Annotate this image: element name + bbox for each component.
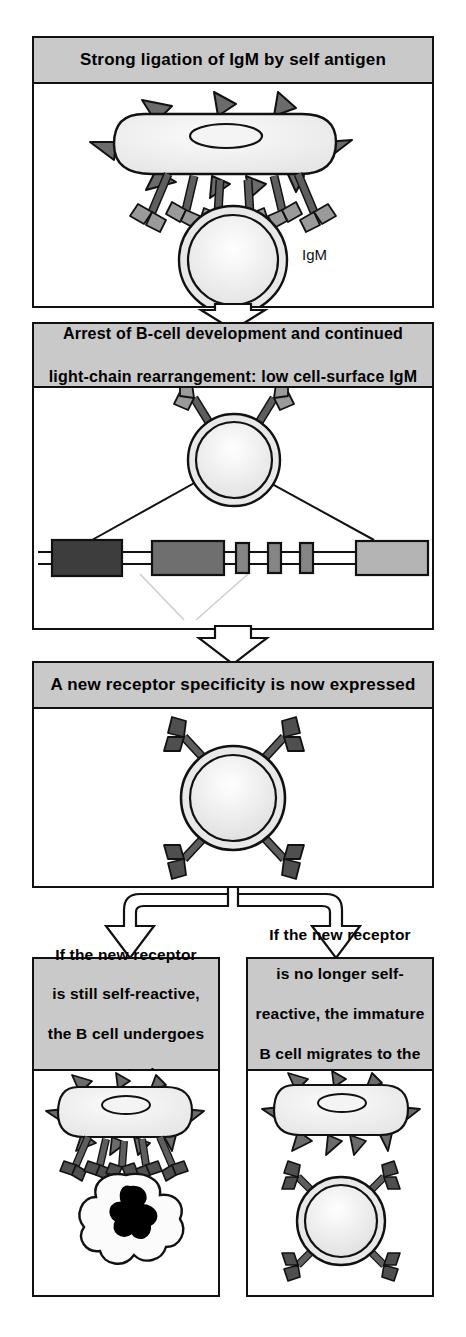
panel-5-header-line-3: reactive, the immature: [251, 1004, 429, 1024]
illustration-mature-bcell: [248, 1071, 432, 1295]
panel-5-header-line-2: is no longer self-: [251, 964, 429, 984]
gene-segment-j-3: [300, 543, 313, 573]
panel-2-header-line-2: light-chain rearrangement: low cell-surf…: [34, 366, 432, 388]
panel-4-header: If the new receptor is still self-reacti…: [34, 959, 218, 1071]
panel-2-header-block: Arrest of B-cell development and continu…: [34, 323, 432, 388]
panel-apoptosis-outcome: If the new receptor is still self-reacti…: [32, 957, 220, 1297]
panel-2-body: [34, 388, 432, 628]
gene-segment-c-light: [356, 541, 428, 575]
gene-segment-j-2: [268, 543, 281, 573]
igm-label: IgM: [302, 246, 327, 263]
panel-4-header-line-1: If the new receptor: [38, 945, 214, 965]
panel-5-header-line-4: B cell migrates to the: [251, 1044, 429, 1064]
panel-4-header-line-2: is still self-reactive,: [38, 984, 214, 1004]
illustration-gene-rearrangement: [34, 388, 432, 628]
igm-receptor: [298, 174, 336, 232]
igm-receptor: [60, 1137, 88, 1181]
panel-arrest-development: Arrest of B-cell development and continu…: [32, 322, 434, 630]
panel-5-header: If the new receptor is no longer self- r…: [248, 959, 432, 1071]
panel-new-receptor-specificity: A new receptor specificity is now expres…: [32, 661, 434, 888]
panel-1-body: IgM: [34, 84, 432, 306]
panel-3-header-text: A new receptor specificity is now expres…: [34, 675, 432, 695]
panel-strong-ligation: Strong ligation of IgM by self antigen: [32, 36, 434, 308]
antigen-cell-nucleus: [190, 124, 262, 148]
panel-4-body: [34, 1071, 218, 1295]
panel-matures-outcome: If the new receptor is no longer self- r…: [246, 957, 434, 1297]
panel-5-header-line-1: If the new receptor: [251, 925, 429, 945]
illustration-new-receptor-bcell: [34, 709, 432, 886]
panel-1-header-text: Strong ligation of IgM by self antigen: [34, 50, 432, 70]
zoom-leader-lines-lower: [140, 574, 248, 620]
antigen-cell-nucleus: [102, 1096, 150, 1114]
panel-1-header: Strong ligation of IgM by self antigen: [34, 38, 432, 84]
b-cell-cytoplasm: [196, 422, 272, 498]
illustration-apoptotic-bcell: [34, 1071, 218, 1295]
b-cell-cytoplasm: [190, 755, 276, 841]
antigen-cell-nucleus: [318, 1094, 366, 1112]
panel-4-header-block: If the new receptor is still self-reacti…: [38, 945, 214, 1084]
panel-2-header-line-1: Arrest of B-cell development and continu…: [34, 323, 432, 345]
igm-receptor: [258, 388, 294, 424]
arrow-panel2-to-panel3: [183, 626, 283, 666]
panel-2-header: Arrest of B-cell development and continu…: [34, 324, 432, 388]
figure-canvas: Strong ligation of IgM by self antigen: [0, 0, 466, 1337]
gene-segment-j-1: [236, 543, 249, 573]
gene-segment-v-dark: [52, 540, 122, 576]
igm-receptor: [174, 388, 210, 424]
panel-3-body: [34, 709, 432, 886]
b-cell-cytoplasm: [305, 1185, 377, 1257]
panel-4-header-line-3: the B cell undergoes: [38, 1024, 214, 1044]
illustration-antigen-bound-bcell: [34, 84, 432, 306]
gene-segment-v-mid: [152, 541, 224, 575]
immature-b-cell-cytoplasm: [188, 215, 278, 305]
panel-5-body: [248, 1071, 432, 1295]
panel-3-header: A new receptor specificity is now expres…: [34, 663, 432, 709]
gene-locus-segments: [52, 540, 428, 576]
